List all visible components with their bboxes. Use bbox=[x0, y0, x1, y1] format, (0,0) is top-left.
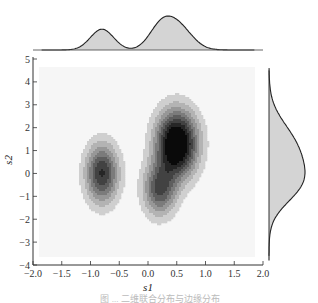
x-tick-label: −0.5 bbox=[110, 268, 128, 279]
y-tick-label: 3 bbox=[25, 99, 30, 110]
x-axis-label: s1 bbox=[143, 281, 153, 293]
y-tick-label: 2 bbox=[25, 122, 30, 133]
top-marginal-density bbox=[33, 16, 263, 50]
y-tick-label: 1 bbox=[25, 145, 30, 156]
x-tick-label: −1.5 bbox=[53, 268, 71, 279]
y-tick-label: −2 bbox=[19, 214, 30, 225]
y-tick-label: 4 bbox=[25, 76, 30, 87]
figure-caption: 图 ... 二维联合分布与边缘分布 bbox=[100, 293, 219, 303]
x-tick-label: 1.0 bbox=[199, 268, 212, 279]
y-axis-label: s2 bbox=[2, 155, 14, 165]
x-tick-label: 2.0 bbox=[257, 268, 270, 279]
y-tick-label: 0 bbox=[25, 168, 30, 179]
y-tick-label: 5 bbox=[25, 54, 30, 65]
density-contours bbox=[39, 67, 255, 257]
x-tick-label: 1.5 bbox=[228, 268, 241, 279]
x-tick-label: −1.0 bbox=[81, 268, 99, 279]
x-tick-label: 0.0 bbox=[142, 268, 155, 279]
y-tick-label: −1 bbox=[19, 191, 30, 202]
y-tick-label: −4 bbox=[19, 260, 30, 271]
joint-kde-plot: −2.0−1.5−1.0−0.50.00.51.01.52.0543210−1−… bbox=[0, 0, 318, 303]
right-marginal-density bbox=[269, 68, 305, 260]
x-tick-label: 0.5 bbox=[171, 268, 184, 279]
y-tick-label: −3 bbox=[19, 237, 30, 248]
